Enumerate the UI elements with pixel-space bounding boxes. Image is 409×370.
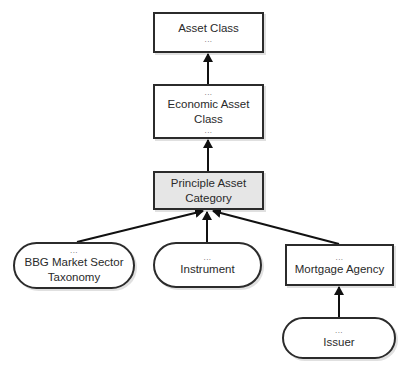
node-issuer-label: Issuer: [323, 335, 354, 350]
node-bbg-market-sector-taxonomy: ... BBG Market Sector Taxonomy: [13, 242, 135, 289]
node-mortgage-agency: ... Mortgage Agency: [285, 244, 394, 286]
node-instrument-ellipsis-top: ...: [203, 254, 211, 262]
node-asset-class-ellipsis-bottom: ...: [204, 36, 212, 44]
node-instrument-label: Instrument: [180, 262, 234, 277]
node-principle-asset-category-label: Principle Asset Category: [171, 176, 246, 206]
node-economic-asset-class-ellipsis-top: ...: [204, 89, 212, 97]
node-asset-class-label: Asset Class: [178, 21, 239, 36]
node-principle-asset-category: Principle Asset Category: [153, 171, 264, 210]
edge-bbg-to-principle: [77, 211, 203, 242]
node-issuer: ... Issuer: [282, 317, 396, 359]
node-bbg-label: BBG Market Sector Taxonomy: [24, 255, 123, 285]
node-mortgage-agency-label: Mortgage Agency: [295, 262, 385, 277]
node-mortgage-agency-ellipsis-top: ...: [335, 254, 343, 262]
node-instrument: ... Instrument: [153, 242, 262, 288]
node-economic-asset-class: ... Economic Asset Class ...: [153, 84, 264, 139]
node-economic-asset-class-ellipsis-bottom: ...: [204, 127, 212, 135]
node-bbg-ellipsis-top: ...: [70, 247, 78, 255]
node-issuer-ellipsis-top: ...: [335, 327, 343, 335]
node-asset-class: Asset Class ...: [153, 12, 264, 53]
edge-mortgage-to-principle: [213, 211, 339, 244]
node-economic-asset-class-label: Economic Asset Class: [168, 97, 250, 127]
